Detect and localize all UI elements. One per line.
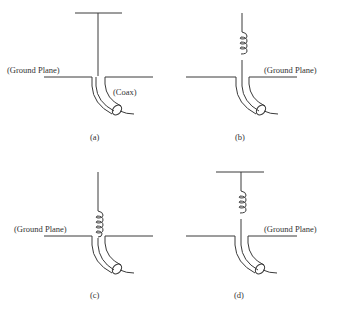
coax-end	[254, 103, 267, 117]
antenna-diagram: (Ground Plane) (Coax) (a) (Ground Plane)…	[0, 0, 344, 309]
coax-outer	[105, 236, 121, 265]
ground-plane-label: (Ground Plane)	[264, 224, 317, 234]
coax-lead	[120, 270, 134, 273]
coax-end	[253, 262, 266, 276]
loading-coil	[239, 191, 246, 213]
caption-d: (d)	[234, 290, 244, 300]
panel-a: (Ground Plane) (Coax) (a)	[7, 13, 153, 142]
caption-b: (b)	[235, 132, 245, 142]
panel-c: (Ground Plane) (c)	[14, 172, 153, 300]
caption-a: (a)	[90, 132, 100, 142]
panel-b: (Ground Plane) (b)	[186, 13, 317, 142]
ground-plane-label: (Ground Plane)	[14, 224, 67, 234]
coax-label: (Coax)	[113, 87, 137, 97]
coax-lead	[264, 111, 278, 114]
caption-c: (c)	[90, 290, 100, 300]
coax-lead	[120, 111, 134, 114]
loading-coil	[240, 32, 247, 54]
coax-lead	[263, 270, 277, 273]
coax-outer	[248, 236, 264, 265]
loading-coil	[96, 211, 103, 237]
ground-plane-label: (Ground Plane)	[7, 65, 60, 75]
coax-end	[110, 103, 123, 117]
coax-end	[110, 262, 123, 276]
ground-plane-label: (Ground Plane)	[264, 65, 317, 75]
coax-outer	[249, 77, 265, 106]
panel-d: (Ground Plane) (d)	[186, 172, 317, 300]
